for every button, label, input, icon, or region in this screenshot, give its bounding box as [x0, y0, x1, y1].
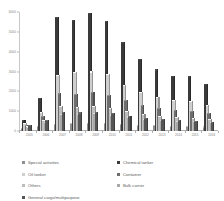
- bar-face: [194, 122, 197, 131]
- bar-top: [95, 112, 98, 113]
- bar: [95, 113, 98, 131]
- bar-cluster: [135, 12, 152, 131]
- bar-top: [28, 125, 31, 126]
- bar-cluster: [185, 12, 202, 131]
- bar: [78, 114, 81, 131]
- legend-item[interactable]: General cargo/multipurpose: [22, 192, 212, 201]
- legend-swatch-icon: [22, 184, 25, 187]
- x-tick-mark: [52, 131, 53, 133]
- y-tick-label: 2000: [9, 89, 16, 93]
- bar: [211, 123, 214, 131]
- chart-figure: 0100020003000400050006000 20052006200720…: [0, 0, 224, 200]
- bar: [128, 117, 131, 131]
- x-tick-mark: [152, 131, 153, 133]
- legend-label: Special activities: [28, 160, 59, 165]
- bar-top: [22, 120, 25, 121]
- legend-item[interactable]: Bulk carrier: [117, 180, 212, 192]
- x-tick-mark: [69, 131, 70, 133]
- bar-side: [64, 112, 65, 131]
- bar-side: [213, 122, 214, 131]
- bar: [144, 119, 147, 131]
- bar-top: [107, 95, 110, 96]
- legend-swatch-icon: [22, 196, 25, 199]
- bar-face: [161, 120, 164, 131]
- bar-cluster: [152, 12, 169, 131]
- bar-cluster: [168, 12, 185, 131]
- bar-top: [76, 107, 79, 108]
- bar: [194, 122, 197, 131]
- x-tick-label: 2007: [59, 133, 66, 137]
- bar-side: [147, 118, 148, 131]
- y-tick-label: 5000: [9, 30, 16, 34]
- bar-top: [155, 69, 158, 70]
- bar-top: [142, 114, 145, 115]
- bar-face: [211, 123, 214, 131]
- bar-top: [161, 119, 164, 120]
- bar-top: [59, 106, 62, 107]
- bar-side: [114, 113, 115, 131]
- bar-top: [111, 113, 114, 114]
- bar-top: [90, 71, 93, 72]
- y-tick-label: 0: [14, 129, 16, 133]
- x-tick-label: 2016: [208, 133, 215, 137]
- bar-top: [208, 119, 211, 120]
- legend-item[interactable]: Others: [22, 180, 117, 192]
- bar-top: [144, 118, 147, 119]
- bar-top: [156, 97, 159, 98]
- bar-top: [92, 106, 95, 107]
- bar-top: [55, 17, 58, 18]
- bar-top: [88, 13, 91, 14]
- bar-side: [197, 121, 198, 131]
- bar-face: [144, 119, 147, 131]
- x-tick-label: 2005: [26, 133, 33, 137]
- bar-top: [190, 111, 193, 112]
- y-tick-label: 3000: [9, 70, 16, 74]
- legend-item[interactable]: Chemical tanker: [117, 157, 212, 169]
- legend-label: Others: [28, 183, 41, 188]
- bar-face: [62, 113, 65, 131]
- legend-item[interactable]: Oil tanker: [22, 169, 117, 181]
- x-tick-label: 2014: [175, 133, 182, 137]
- bar-top: [78, 112, 81, 113]
- legend-item[interactable]: Container: [117, 169, 212, 181]
- bar-top: [175, 117, 178, 118]
- bar-top: [207, 113, 210, 114]
- chart-legend: Special activitiesChemical tankerOil tan…: [22, 157, 212, 200]
- bar-face: [95, 113, 98, 131]
- bar-top: [121, 42, 124, 43]
- x-tick-mark: [19, 131, 20, 133]
- bar-top: [125, 111, 128, 112]
- x-tick-label: 2010: [109, 133, 116, 137]
- bar-top: [138, 59, 141, 60]
- bar: [161, 120, 164, 131]
- legend-label: Chemical tanker: [123, 160, 153, 165]
- x-tick-mark: [36, 131, 37, 133]
- legend-label: Container: [123, 172, 141, 177]
- bar-top: [105, 21, 108, 22]
- x-tick-label: 2011: [125, 133, 132, 137]
- y-tick-label: 6000: [9, 10, 16, 14]
- bar-cluster: [36, 12, 53, 131]
- bar-top: [40, 112, 43, 113]
- bar-top: [62, 112, 65, 113]
- bar-top: [174, 110, 177, 111]
- bar-top: [74, 94, 77, 95]
- x-tick-label: 2008: [76, 133, 83, 137]
- bar-face: [28, 126, 31, 131]
- x-tick-mark: [135, 131, 136, 133]
- bar-cluster: [52, 12, 69, 131]
- bar-top: [128, 116, 131, 117]
- legend-item[interactable]: Special activities: [22, 157, 117, 169]
- bar-face: [178, 121, 181, 131]
- bar-top: [72, 20, 75, 21]
- bar-top: [141, 105, 144, 106]
- x-tick-mark: [119, 131, 120, 133]
- bar-side: [180, 120, 181, 131]
- bar-cluster: [69, 12, 86, 131]
- y-tick-label: 1000: [9, 109, 16, 113]
- bar-cluster: [19, 12, 36, 131]
- bar-top: [73, 72, 76, 73]
- bar-top: [41, 116, 44, 117]
- x-tick-mark: [85, 131, 86, 133]
- bar-side: [130, 116, 131, 131]
